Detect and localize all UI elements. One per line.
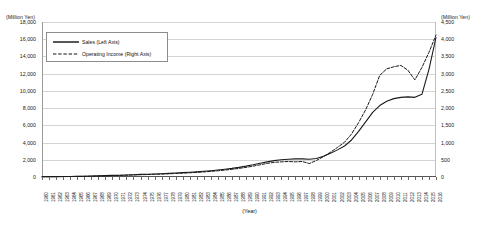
left-axis-tick-label: 16,000: [0, 36, 36, 42]
x-axis-tick-label: 2006: [368, 192, 373, 202]
x-axis-tick-label: 1980: [185, 192, 190, 202]
x-axis-tick-label: 2016: [438, 192, 443, 202]
x-axis-tick-label: 1990: [255, 192, 260, 202]
x-axis-title: (Year): [0, 208, 499, 214]
x-axis-tick-label: 1971: [121, 192, 126, 202]
x-axis-tick-label: 1974: [143, 192, 148, 202]
x-axis-tick-label: 1960: [44, 192, 49, 202]
left-axis-tick-label: 12,000: [0, 71, 36, 77]
x-axis-tick-label: 1969: [107, 192, 112, 202]
legend-solid-line-icon: [53, 39, 79, 45]
x-axis-tick-labels: 1960196119621963196419651966196719681969…: [42, 180, 436, 206]
legend-dashed-line-icon: [53, 51, 79, 57]
left-axis-tick-label: 6,000: [0, 122, 36, 128]
left-axis-tick-label: 8,000: [0, 105, 36, 111]
x-axis-tick-label: 1996: [297, 192, 302, 202]
x-axis-tick-label: 1968: [100, 192, 105, 202]
x-axis-tick-label: 1997: [304, 192, 309, 202]
x-axis-tick-label: 1978: [171, 192, 176, 202]
x-axis-tick-label: 2008: [382, 192, 387, 202]
left-axis-tick-label: 2,000: [0, 157, 36, 163]
x-axis-tick-label: 2000: [325, 192, 330, 202]
x-axis-tick-label: 1973: [135, 192, 140, 202]
x-axis-tick-label: 2002: [340, 192, 345, 202]
x-axis-tick-label: 1984: [213, 192, 218, 202]
x-axis-tick-label: 1967: [93, 192, 98, 202]
x-axis-tick: [436, 177, 437, 180]
right-axis-tick-label: 2,500: [441, 88, 477, 94]
x-axis-tick-label: 1989: [248, 192, 253, 202]
right-axis-tick-label: 2,000: [441, 105, 477, 111]
right-axis-tick-label: 4,000: [441, 36, 477, 42]
x-axis-tick-label: 1966: [86, 192, 91, 202]
x-axis-tick-label: 1985: [220, 192, 225, 202]
x-axis-tick-label: 1992: [269, 192, 274, 202]
x-axis-tick-label: 1986: [227, 192, 232, 202]
x-axis-tick-label: 1987: [234, 192, 239, 202]
x-axis-tick-label: 1982: [199, 192, 204, 202]
x-axis-tick-label: 1998: [311, 192, 316, 202]
x-axis-tick-label: 1972: [128, 192, 133, 202]
left-axis-tick-label: 4,000: [0, 140, 36, 146]
x-axis-tick-label: 1975: [150, 192, 155, 202]
x-axis-tick-label: 2004: [354, 192, 359, 202]
x-axis-tick-label: 1995: [290, 192, 295, 202]
x-axis-tick-label: 1965: [79, 192, 84, 202]
right-axis-tick-label: 4,500: [441, 19, 477, 25]
x-axis-tick-label: 2010: [396, 192, 401, 202]
x-axis-tick-label: 2001: [332, 192, 337, 202]
left-axis-tick-label: 10,000: [0, 88, 36, 94]
x-axis-tick-label: 2007: [375, 192, 380, 202]
right-axis-tick-label: 0: [441, 174, 477, 180]
x-axis-tick-label: 1962: [58, 192, 63, 202]
x-axis-tick-label: 1964: [72, 192, 77, 202]
x-axis-tick-label: 2014: [424, 192, 429, 202]
x-axis-tick-label: 1979: [178, 192, 183, 202]
x-axis-tick-label: 1999: [318, 192, 323, 202]
left-axis-tick-label: 18,000: [0, 19, 36, 25]
right-axis-tick-label: 3,500: [441, 53, 477, 59]
x-axis-tick-label: 2005: [361, 192, 366, 202]
left-axis-tick-label: 0: [0, 174, 36, 180]
legend-label-operating-income: Operating Income (Right Axis): [82, 51, 151, 57]
x-axis-tick-label: 2011: [403, 193, 408, 202]
x-axis-tick-label: 2013: [417, 192, 422, 202]
right-axis-tick-label: 1,500: [441, 122, 477, 128]
legend-item-operating-income: Operating Income (Right Axis): [53, 49, 151, 59]
x-axis-tick-label: 1994: [283, 192, 288, 202]
x-axis-tick-label: 2003: [347, 192, 352, 202]
x-axis-tick-label: 1970: [114, 192, 119, 202]
x-axis-tick-label: 1963: [65, 192, 70, 202]
x-axis-tick-label: 2012: [410, 192, 415, 202]
x-axis-tick-label: 1977: [164, 192, 169, 202]
x-axis-tick-label: 1988: [241, 192, 246, 202]
x-axis-tick-label: 2015: [431, 192, 436, 202]
x-axis-tick-label: 1991: [262, 192, 267, 202]
x-axis-tick-label: 1993: [276, 192, 281, 202]
right-axis-tick-label: 1,000: [441, 140, 477, 146]
x-axis-tick-label: 1981: [192, 192, 197, 202]
legend-item-sales: Sales (Left Axis): [53, 37, 119, 47]
right-axis-tick-label: 500: [441, 157, 477, 163]
line-chart: (Million Yen) (Million Yen) 02,0004,0006…: [0, 0, 499, 230]
left-axis-tick-label: 14,000: [0, 53, 36, 59]
x-axis-tick-label: 1961: [51, 192, 56, 202]
right-axis-tick-label: 3,000: [441, 71, 477, 77]
legend-label-sales: Sales (Left Axis): [82, 39, 119, 45]
x-axis-tick-label: 1976: [157, 192, 162, 202]
x-axis-tick-label: 2009: [389, 192, 394, 202]
chart-legend: Sales (Left Axis) Operating Income (Righ…: [46, 32, 168, 62]
x-axis-tick-label: 1983: [206, 192, 211, 202]
